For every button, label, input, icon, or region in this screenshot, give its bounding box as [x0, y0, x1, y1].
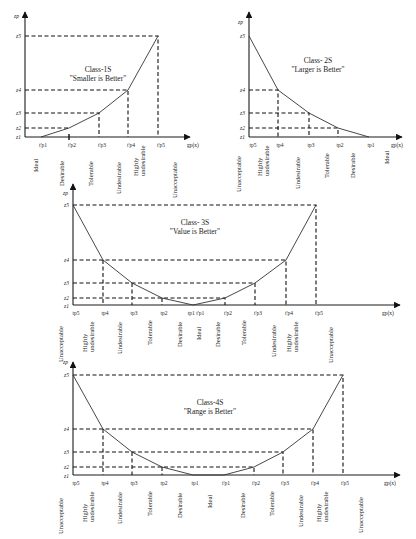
category-label: Unacceptable [235, 156, 242, 192]
z-level-label: z5 [239, 33, 245, 39]
tick-label: tp3 [307, 142, 314, 148]
category-label: Desirable [239, 493, 246, 518]
tick-label: tp1 [367, 142, 374, 148]
z-level-label: z4 [15, 87, 21, 93]
z-level-label: z3 [239, 110, 245, 116]
chart-class-1s: zp gp(x) z5 z4 z3 z2 z1 Class-1S "Smalle… [13, 12, 199, 198]
category-label: Highlyundesirable [285, 322, 299, 352]
chart-subtitle: "Range is Better" [184, 407, 236, 416]
tick-label: t'p2 [224, 310, 232, 316]
category-label: Ideal [206, 495, 213, 508]
category-label: Tolerable [240, 320, 247, 345]
z-level-label: z2 [239, 125, 245, 131]
tick-label: t'p1 [222, 480, 230, 486]
tick-label: tp4 [101, 310, 108, 316]
chart-title: Class-1S [85, 65, 112, 74]
tick-label: t'p5 [157, 142, 165, 148]
category-label: Desirable [176, 493, 183, 518]
z-level-label: z3 [63, 280, 69, 286]
category-label: Desirable [214, 322, 221, 347]
tick-label: tp5 [72, 480, 79, 486]
chart-class-2s: zp gp(x) z5 z4 z3 z2 z1 Class- 2S "Large… [235, 12, 403, 192]
tick-label: tp3 [130, 480, 137, 486]
category-label: Highlyundesirable [256, 146, 270, 176]
category-label: Desirable [58, 161, 65, 186]
preference-curve [73, 375, 343, 475]
z-level-label: z1 [63, 473, 69, 479]
tick-label: tp5 [249, 142, 256, 148]
category-label: Unacceptable [357, 497, 364, 533]
category-label: Ideal [195, 327, 202, 340]
category-label: Unacceptable [327, 327, 334, 363]
z-level-label: z2 [63, 295, 69, 301]
category-label: Undesirable [116, 322, 123, 354]
category-label: Desirable [176, 322, 183, 347]
category-label: Unacceptable [57, 326, 64, 362]
tick-label: tp4 [276, 142, 283, 148]
chart-subtitle: "Smaller is Better" [70, 74, 127, 83]
category-label: Undesirable [115, 162, 122, 194]
preference-curve [41, 36, 158, 137]
guide-lines [73, 375, 343, 475]
z-level-label: z5 [63, 202, 69, 208]
x-axis-label: gp(x) [384, 480, 396, 487]
tick-label: t'p4 [127, 142, 135, 148]
tick-label: tp5 [72, 310, 79, 316]
tick-label: tp2 [336, 142, 343, 148]
category-label: Undesirable [294, 157, 301, 189]
category-label: Undesirable [270, 325, 277, 357]
chart-class-4s: zp gp(x) z5 z4 z3 z2 z1 Class-4S "Range … [57, 359, 400, 534]
category-label: Highlyundesirable [81, 492, 95, 522]
z-level-label: z1 [63, 303, 69, 309]
z-level-label: z1 [15, 134, 21, 140]
tick-label: tp1 t'p1 [188, 310, 205, 316]
tick-label: tp2 [160, 480, 167, 486]
z-level-label: z5 [63, 372, 69, 378]
tick-label: tp4 [101, 480, 108, 486]
tick-label: t'p4 [285, 310, 293, 316]
z-level-label: z5 [15, 33, 21, 39]
category-label: Tolerable [146, 320, 153, 345]
category-label: Desirable [349, 153, 356, 178]
y-axis-label: zp [62, 359, 68, 365]
category-label: Tolerable [87, 161, 94, 186]
tick-label: t'p2 [68, 142, 76, 148]
category-label: Undesirable [116, 492, 123, 524]
tick-label: tp3 [130, 310, 137, 316]
x-axis-label: gp(x) [391, 142, 403, 149]
y-axis-label: zp [237, 19, 243, 25]
y-axis-label: zp [62, 190, 68, 196]
category-label: Highlyundesirable [132, 146, 146, 176]
tick-label: tp1 [191, 480, 198, 486]
chart-title: Class- 3S [181, 218, 210, 227]
category-label: Tolerable [268, 491, 275, 516]
z-level-label: z4 [63, 257, 69, 263]
z-level-label: z4 [239, 87, 245, 93]
category-label: Highlyundesirable [81, 322, 95, 352]
z-level-label: z2 [63, 464, 69, 470]
y-axis-label: zp [13, 13, 19, 19]
z-level-label: z1 [239, 134, 245, 140]
category-label: Highlyundesirable [315, 492, 329, 522]
x-axis-label: gp(x) [382, 310, 394, 317]
category-label: Tolerable [146, 491, 153, 516]
tick-label: t'p3 [98, 142, 106, 148]
category-label: Unacceptable [57, 498, 64, 534]
class-function-diagram: zp gp(x) z5 z4 z3 z2 z1 Class-1S "Smalle… [0, 0, 416, 539]
category-label: Tolerable [323, 153, 330, 178]
tick-label: tp2 [160, 310, 167, 316]
chart-class-3s: zp gp(x) z5 z4 z3 z2 z1 Class- 3S "Value… [57, 184, 400, 363]
guide-lines [249, 90, 338, 137]
chart-subtitle: "Larger is Better" [291, 65, 344, 74]
category-label: Unacceptable [171, 162, 178, 198]
category-label: Undesirable [297, 495, 304, 527]
tick-label: t'p3 [281, 480, 289, 486]
tick-label: t'p5 [315, 310, 323, 316]
tick-label: t'p3 [254, 310, 262, 316]
tick-label: t'p4 [311, 480, 319, 486]
tick-label: t'p5 [341, 480, 349, 486]
z-level-label: z2 [15, 125, 21, 131]
chart-subtitle: "Value is Better" [170, 227, 220, 236]
tick-label: t'p2 [252, 480, 260, 486]
z-level-label: z3 [63, 449, 69, 455]
